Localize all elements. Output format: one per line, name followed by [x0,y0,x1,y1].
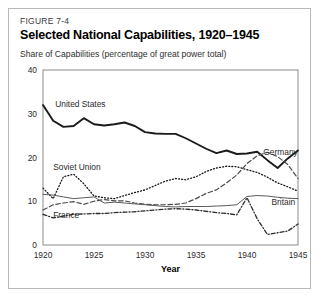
x-tick-label: 1920 [34,250,53,260]
x-tick-label: 1945 [289,250,308,260]
x-tick-label: 1925 [85,250,104,260]
figure-card: FIGURE 7-4 Selected National Capabilitie… [8,8,311,289]
series-label-united-states: United States [55,99,105,109]
y-tick-label: 30 [28,109,38,119]
y-axis-tick-labels: 010203040 [28,65,38,250]
series-label-france: France [53,210,79,220]
y-tick-label: 20 [28,153,38,163]
series-label-soviet-union: Soviet Union [53,162,101,172]
x-tick-label: 1940 [238,250,257,260]
y-tick-label: 40 [28,65,38,75]
series-line-united-states [43,105,298,168]
chart-plot-area: 010203040 192019251930193519401945 Unite… [9,64,312,278]
series-label-britain: Britain [271,197,295,207]
line-chart: 010203040 192019251930193519401945 Unite… [9,64,312,278]
figure-title: Selected National Capabilities, 1920–194… [20,28,259,42]
figure-number: FIGURE 7-4 [20,16,69,26]
series-label-germany: Germany [263,147,298,157]
y-tick-label: 10 [28,196,38,206]
plot-frame [43,70,298,245]
figure-subtitle: Share of Capabilities (percentage of gre… [20,49,226,59]
x-tick-label: 1930 [136,250,155,260]
y-tick-label: 0 [32,240,37,250]
x-tick-label: 1935 [187,250,206,260]
x-axis-title: Year [161,264,181,274]
x-axis-tick-labels: 192019251930193519401945 [34,250,308,260]
series-inline-labels: United StatesSoviet UnionGermanyBritainF… [53,99,298,220]
